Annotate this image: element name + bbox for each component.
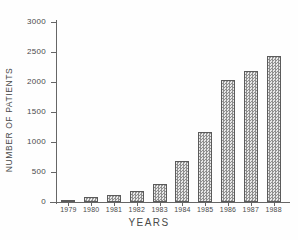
bar bbox=[130, 191, 144, 202]
y-tick-mark bbox=[51, 52, 56, 53]
y-tick-mark bbox=[51, 22, 56, 23]
bar bbox=[175, 161, 189, 202]
y-tick-mark bbox=[51, 142, 56, 143]
y-tick-mark bbox=[51, 172, 56, 173]
y-tick-label: 3000 bbox=[2, 17, 46, 26]
bar bbox=[84, 197, 98, 202]
bar bbox=[61, 200, 75, 202]
y-tick-label: 500 bbox=[2, 167, 46, 176]
bar bbox=[267, 56, 281, 202]
bar bbox=[221, 80, 235, 202]
y-tick-label: 0 bbox=[2, 197, 46, 206]
y-tick-mark bbox=[51, 202, 56, 203]
bar bbox=[244, 71, 258, 202]
y-tick-label: 1500 bbox=[2, 107, 46, 116]
y-tick-mark bbox=[51, 82, 56, 83]
bar bbox=[198, 132, 212, 202]
x-axis-title: YEARS bbox=[0, 217, 298, 228]
y-tick-mark bbox=[51, 112, 56, 113]
x-tick-label: 1988 bbox=[261, 206, 287, 213]
y-tick-label: 1000 bbox=[2, 137, 46, 146]
x-axis-line bbox=[50, 202, 290, 203]
bar-chart-figure: NUMBER OF PATIENTS 050010001500200025003… bbox=[0, 0, 298, 240]
y-tick-label: 2000 bbox=[2, 77, 46, 86]
y-tick-label: 2500 bbox=[2, 47, 46, 56]
bar bbox=[107, 195, 121, 202]
bar bbox=[153, 184, 167, 202]
y-axis-line bbox=[56, 20, 57, 204]
